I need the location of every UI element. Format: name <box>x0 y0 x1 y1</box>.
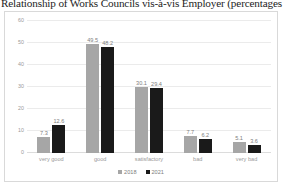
x-axis-category-label: very bad <box>222 156 271 162</box>
bar[interactable] <box>101 47 114 153</box>
y-axis-tick-label: 40 <box>18 61 24 67</box>
bar[interactable] <box>248 145 261 153</box>
bar[interactable] <box>184 136 197 153</box>
bar-wrapper: 6.2 <box>199 21 212 153</box>
bar-value-label: 48.2 <box>102 40 113 46</box>
bar-groups: 7.312.649.548.230.129.47.76.25.13.6 <box>27 21 271 153</box>
bar-wrapper: 7.3 <box>37 21 50 153</box>
y-axis-tick-label: 10 <box>18 127 24 133</box>
y-axis-tick-label: 30 <box>18 83 24 89</box>
bar-wrapper: 48.2 <box>101 21 114 153</box>
bar[interactable] <box>233 142 246 153</box>
bar-value-label: 49.5 <box>87 37 98 43</box>
legend-swatch-icon <box>118 170 122 174</box>
bar-wrapper: 30.1 <box>135 21 148 153</box>
bar-value-label: 29.4 <box>151 81 162 87</box>
y-axis-tick-label: 50 <box>18 39 24 45</box>
bar-wrapper: 7.7 <box>184 21 197 153</box>
legend-item[interactable]: 2018 <box>118 169 136 175</box>
bar-value-label: 7.3 <box>40 130 48 136</box>
bar[interactable] <box>199 139 212 153</box>
bar[interactable] <box>52 125 65 153</box>
y-axis-tick-label: 0 <box>21 149 24 155</box>
bar-wrapper: 49.5 <box>86 21 99 153</box>
x-axis-category-label: satisfactory <box>125 156 174 162</box>
bar-value-label: 7.7 <box>186 129 194 135</box>
x-axis-category-label: bad <box>173 156 222 162</box>
x-axis-tick-labels: very goodgoodsatisfactorybadvery bad <box>27 156 271 162</box>
bar-value-label: 6.2 <box>201 132 209 138</box>
y-axis-tick-label: 20 <box>18 105 24 111</box>
legend-label: 2021 <box>152 169 164 175</box>
legend-swatch-icon <box>146 170 150 174</box>
bar[interactable] <box>37 137 50 153</box>
y-axis-tick-label: 60 <box>18 17 24 23</box>
bar-wrapper: 12.6 <box>52 21 65 153</box>
bar-wrapper: 29.4 <box>150 21 163 153</box>
bar-value-label: 12.6 <box>53 118 64 124</box>
bar-group: 49.548.2 <box>76 21 125 153</box>
bar-value-label: 5.1 <box>235 135 243 141</box>
chart-legend: 20182021 <box>5 169 277 175</box>
legend-label: 2018 <box>124 169 136 175</box>
bar-group: 5.13.6 <box>222 21 271 153</box>
x-axis-category-label: very good <box>27 156 76 162</box>
bar-group: 7.312.6 <box>27 21 76 153</box>
plot-area: 0102030405060 7.312.649.548.230.129.47.7… <box>27 21 271 153</box>
page-title: Relationship of Works Councils vis-à-vis… <box>0 0 283 9</box>
bar-value-label: 30.1 <box>136 80 147 86</box>
bar-wrapper: 5.1 <box>233 21 246 153</box>
bar-group: 30.129.4 <box>125 21 174 153</box>
bar-value-label: 3.6 <box>250 138 258 144</box>
chart-container: 0102030405060 7.312.649.548.230.129.47.7… <box>4 11 278 182</box>
bar[interactable] <box>135 87 148 153</box>
legend-item[interactable]: 2021 <box>146 169 164 175</box>
x-axis-category-label: good <box>76 156 125 162</box>
bar[interactable] <box>150 88 163 153</box>
bar[interactable] <box>86 44 99 153</box>
bar-wrapper: 3.6 <box>248 21 261 153</box>
bar-group: 7.76.2 <box>173 21 222 153</box>
